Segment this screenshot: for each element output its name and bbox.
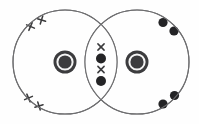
bond-dot-lower: [96, 76, 106, 86]
dot-top-outer: [169, 26, 178, 35]
left-nucleus-core: [60, 57, 70, 67]
diagram-canvas: O O: [0, 0, 199, 124]
bond-dot-upper: [96, 54, 106, 64]
right-nucleus-core: [132, 57, 142, 67]
left-oxygen-nucleus: O: [54, 51, 77, 74]
right-oxygen-nucleus: O: [126, 51, 149, 74]
left-atom-lone-pair-crosses: [25, 16, 46, 110]
dot-and-cross-diagram: O O: [0, 0, 199, 124]
right-atom-lone-pair-dots: [158, 18, 179, 109]
cross-bottom-outer: [25, 94, 33, 102]
